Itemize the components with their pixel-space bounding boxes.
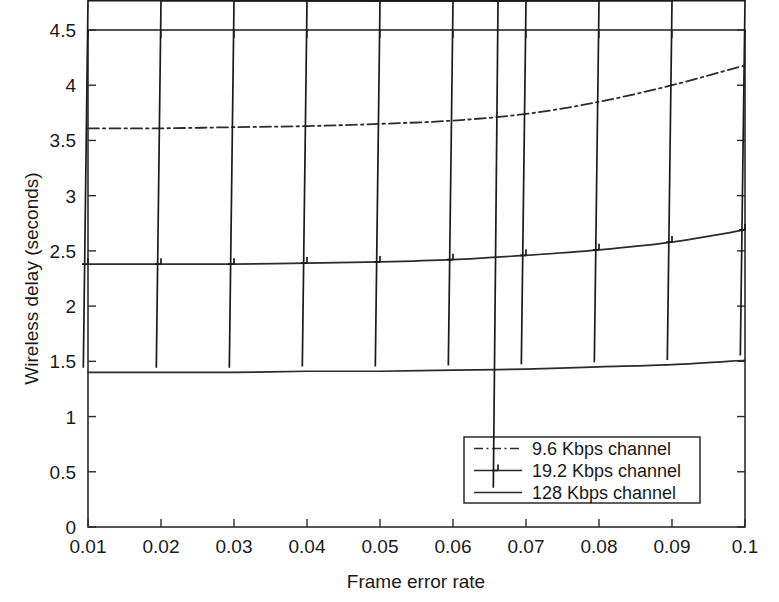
series-2 <box>82 224 745 264</box>
x-tick-label: 0.03 <box>216 536 253 557</box>
series-layer <box>82 1 745 373</box>
x-tick-label: 0.01 <box>70 536 107 557</box>
data-point-marker <box>156 1 372 373</box>
legend-marker-3 <box>493 1 499 493</box>
x-tick-label: 0.09 <box>654 536 691 557</box>
x-tick-label: 0.08 <box>581 536 618 557</box>
data-point-marker <box>371 1 380 372</box>
y-tick-label: 3.5 <box>50 130 76 151</box>
data-point-marker <box>370 1 453 370</box>
data-point-marker <box>365 1 672 365</box>
legend-label-1: 9.6 Kbps channel <box>532 439 671 459</box>
x-tick-label: 0.05 <box>362 536 399 557</box>
x-tick-label: 0.04 <box>289 536 326 557</box>
y-axis-ticks <box>88 30 96 527</box>
y-tick-label: 4 <box>65 75 76 96</box>
data-point-marker <box>83 1 372 373</box>
y-axis-tick-labels: 00.511.522.533.544.5 <box>50 20 77 538</box>
data-point-marker <box>229 1 372 373</box>
x-tick-label: 0.06 <box>435 536 472 557</box>
series-line-2 <box>88 230 745 264</box>
figure-canvas: 00.511.522.533.544.5 0.010.020.030.040.0… <box>0 0 779 602</box>
x-tick-label: 0.02 <box>143 536 180 557</box>
series-line-1 <box>88 65 745 128</box>
series-line-3 <box>88 360 745 372</box>
y-tick-label: 2 <box>65 296 76 317</box>
line-chart: 00.511.522.533.544.5 0.010.020.030.040.0… <box>0 0 779 602</box>
series-1 <box>88 65 745 128</box>
y-tick-label: 1.5 <box>50 351 76 372</box>
y-tick-label: 0 <box>65 517 76 538</box>
series-markers-3 <box>83 1 745 373</box>
y-tick-label: 2.5 <box>50 241 76 262</box>
y-tick-label: 4.5 <box>50 20 76 41</box>
y-tick-label: 0.5 <box>50 462 76 483</box>
x-axis-tick-labels: 0.010.020.030.040.050.060.070.080.090.1 <box>70 536 759 557</box>
series-3 <box>83 1 745 373</box>
data-point-marker <box>302 1 371 372</box>
top-axis-ticks <box>88 30 745 38</box>
x-tick-label: 0.1 <box>732 536 758 557</box>
legend-label-3: 128 Kbps channel <box>532 483 676 503</box>
x-axis-ticks <box>88 519 745 527</box>
series-markers-2 <box>82 224 745 264</box>
data-point-marker <box>360 1 745 361</box>
data-point-marker <box>369 1 526 369</box>
y-tick-label: 1 <box>65 407 76 428</box>
x-axis-title: Frame error rate <box>347 571 485 592</box>
y-axis-title: Wireless delay (seconds) <box>21 172 42 384</box>
y-tick-label: 3 <box>65 186 76 207</box>
data-point-marker <box>367 1 599 367</box>
legend-label-2: 19.2 Kbps channel <box>532 461 681 481</box>
x-tick-label: 0.07 <box>508 536 545 557</box>
